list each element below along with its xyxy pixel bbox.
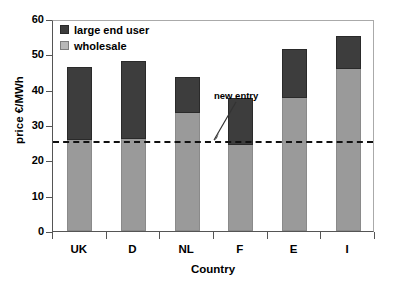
legend-swatch-light-icon [60,41,69,50]
chart-figure: price €/MWh 0102030405060 new entry UKDN… [0,0,412,289]
legend-label-large-end-user: large end user [74,24,149,36]
legend-label-wholesale: wholesale [74,40,127,52]
legend-swatch-dark-icon [60,25,69,34]
legend-item-wholesale: wholesale [60,38,149,53]
chart-legend: large end user wholesale [60,22,149,54]
legend-item-large-end-user: large end user [60,22,149,37]
